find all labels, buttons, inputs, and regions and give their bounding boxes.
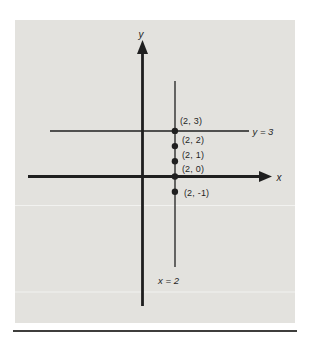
data-point — [172, 158, 178, 164]
y-axis-label: y — [138, 29, 145, 40]
data-point — [172, 143, 178, 149]
point-label: (2, 2) — [182, 135, 204, 145]
x-axis-label: x — [276, 172, 283, 183]
x-axis-arrow-icon — [259, 171, 272, 182]
vertical-line-label: x = 2 — [157, 275, 180, 286]
points-layer: (2, 3)(2, 2)(2, 1)(2, 0)(2, -1) — [172, 116, 210, 198]
data-point — [172, 128, 178, 134]
point-label: (2, 1) — [182, 150, 204, 160]
y-axis-arrow-icon — [137, 40, 148, 54]
bottom-rule — [13, 330, 297, 332]
point-label: (2, -1) — [184, 188, 209, 198]
data-point — [172, 173, 178, 179]
point-label: (2, 3) — [180, 116, 202, 126]
point-label: (2, 0) — [182, 164, 204, 174]
horizontal-line-label: y = 3 — [252, 126, 275, 137]
coordinate-plane: y x y = 3 x = 2 (2, 3)(2, 2)(2, 1)(2, 0)… — [0, 0, 310, 348]
page: y x y = 3 x = 2 (2, 3)(2, 2)(2, 1)(2, 0)… — [0, 0, 310, 348]
data-point — [172, 189, 178, 195]
